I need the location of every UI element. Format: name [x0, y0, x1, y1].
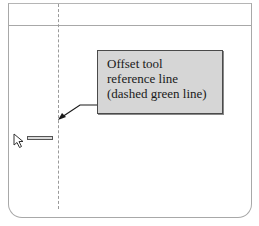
cursor-tooltip — [27, 136, 53, 140]
callout-line-1: Offset tool — [107, 56, 222, 71]
annotation-callout: Offset tool reference line (dashed green… — [97, 50, 223, 114]
callout-line-2: reference line — [107, 71, 222, 86]
arrow-pointer-icon — [13, 133, 25, 149]
callout-line-3: (dashed green line) — [107, 86, 222, 101]
